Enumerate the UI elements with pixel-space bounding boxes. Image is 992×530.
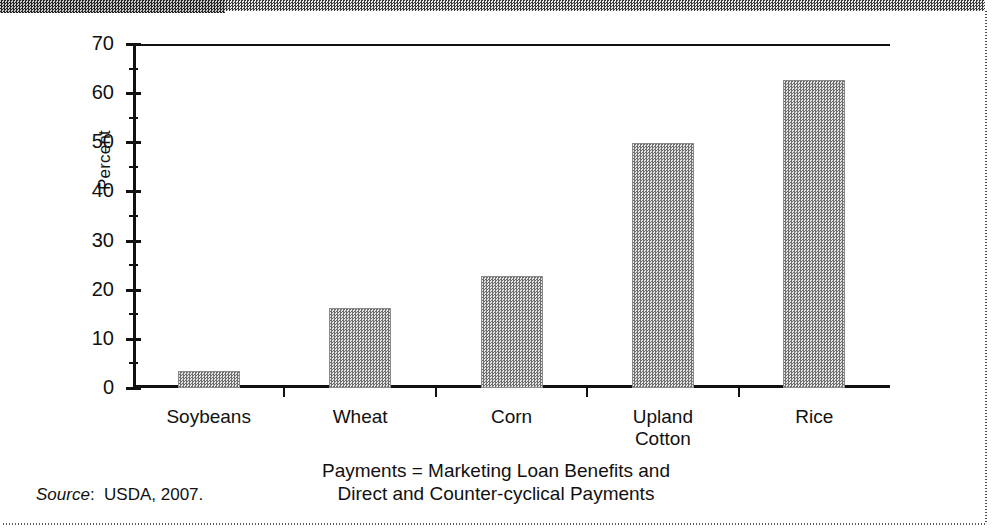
x-category-label: Corn <box>432 406 592 428</box>
figure-page: Percent 010203040506070 SoybeansWheatCor… <box>0 0 992 530</box>
bar <box>329 308 391 388</box>
y-tick-minor-mark <box>129 215 138 217</box>
y-tick-mark <box>126 43 141 46</box>
y-tick-label: 40 <box>60 180 114 200</box>
y-tick-mark <box>126 190 141 193</box>
y-tick-minor-mark <box>129 117 138 119</box>
caption-line-1: Payments = Marketing Loan Benefits and <box>196 459 796 482</box>
bar <box>481 276 543 388</box>
bar <box>632 143 694 388</box>
y-tick-label: 20 <box>60 279 114 299</box>
source-value: : USDA, 2007. <box>90 485 203 504</box>
y-axis-title: Percent <box>95 95 115 225</box>
y-tick-mark <box>126 240 141 243</box>
y-tick-minor-mark <box>129 68 138 70</box>
x-category-label-line: Rice <box>734 406 894 428</box>
y-tick-label: 30 <box>60 230 114 250</box>
x-category-label-line: Corn <box>432 406 592 428</box>
x-category-label: Soybeans <box>129 406 289 428</box>
y-tick-mark <box>126 92 141 95</box>
source-note: Source: USDA, 2007. <box>36 485 203 505</box>
y-tick-minor-mark <box>129 264 138 266</box>
y-tick-mark <box>126 289 141 292</box>
y-tick-label: 10 <box>60 328 114 348</box>
chart-caption: Payments = Marketing Loan Benefits and D… <box>196 459 796 505</box>
y-tick-minor-mark <box>129 166 138 168</box>
y-tick-label: 60 <box>60 82 114 102</box>
y-tick-label: 50 <box>60 131 114 151</box>
bar <box>178 371 240 388</box>
source-label: Source <box>36 485 90 504</box>
y-tick-mark <box>126 387 141 390</box>
bar-chart: Percent 010203040506070 SoybeansWheatCor… <box>0 0 992 530</box>
y-tick-mark <box>126 141 141 144</box>
x-category-label-line: Cotton <box>583 428 743 450</box>
x-category-label: Rice <box>734 406 894 428</box>
bar <box>783 80 845 388</box>
y-tick-minor-mark <box>129 313 138 315</box>
y-tick-minor-mark <box>129 362 138 364</box>
y-tick-mark <box>126 338 141 341</box>
x-category-label: UplandCotton <box>583 406 743 450</box>
x-category-label-line: Wheat <box>280 406 440 428</box>
y-tick-label: 0 <box>60 377 114 397</box>
x-tick-mark <box>586 388 588 397</box>
caption-line-2: Direct and Counter-cyclical Payments <box>196 482 796 505</box>
x-category-label-line: Soybeans <box>129 406 289 428</box>
x-tick-mark <box>738 388 740 397</box>
x-tick-mark <box>283 388 285 397</box>
y-tick-label: 70 <box>60 33 114 53</box>
x-category-label: Wheat <box>280 406 440 428</box>
x-category-label-line: Upland <box>583 406 743 428</box>
x-tick-mark <box>435 388 437 397</box>
